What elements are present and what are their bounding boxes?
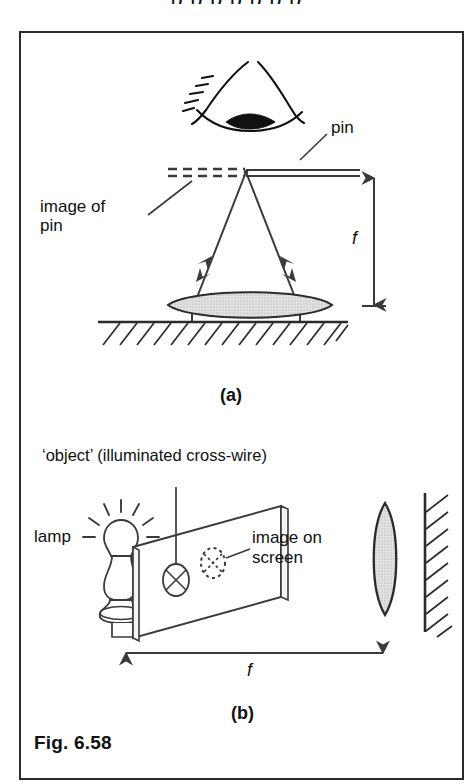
image-of-pin-label-line1: image of (40, 197, 105, 216)
panel-a-label: (a) (220, 385, 242, 405)
image-on-screen-label-line1: image on (252, 528, 322, 547)
page-top-text-remnant: p p p p p p p (0, 0, 472, 4)
object-title-label: ‘object’ (illuminated cross-wire) (42, 446, 267, 464)
panel-b-label: (b) (231, 703, 254, 723)
image-on-screen-label-line2: screen (252, 548, 303, 567)
focal-length-label-a: f (352, 228, 357, 248)
lamp-label: lamp (34, 527, 71, 546)
focal-length-label-b: f (247, 660, 252, 680)
pin-label: pin (331, 118, 354, 137)
image-of-pin-label-line2: pin (40, 216, 63, 235)
page-canvas: p p p p p p p (0, 0, 472, 784)
figure-frame (19, 31, 464, 780)
figure-caption: Fig. 6.58 (34, 732, 112, 753)
